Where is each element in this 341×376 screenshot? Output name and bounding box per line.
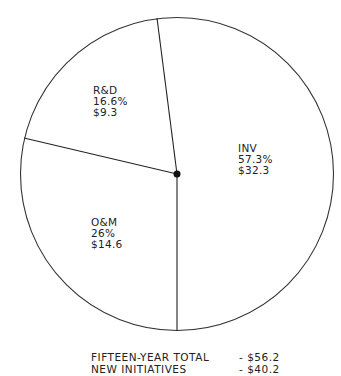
- divider-rd-om: [24, 138, 177, 174]
- pie-chart: [0, 0, 341, 376]
- chart-footnote: FIFTEEN-YEAR TOTAL - $56.2 NEW INITIATIV…: [91, 352, 280, 375]
- divider-inv-rd: [157, 18, 177, 174]
- center-dot: [174, 171, 181, 178]
- slice-label-inv: INV 57.3% $32.3: [238, 143, 273, 176]
- slice-value: $9.3: [93, 107, 128, 118]
- slice-value: $32.3: [238, 165, 273, 176]
- slice-label-om: O&M 26% $14.6: [91, 217, 123, 250]
- new-initiatives-row: NEW INITIATIVES - $40.2: [91, 364, 280, 376]
- slice-value: $14.6: [91, 239, 123, 250]
- slice-label-rd: R&D 16.6% $9.3: [93, 85, 128, 118]
- total-label: FIFTEEN-YEAR TOTAL: [91, 352, 239, 364]
- total-value: - $56.2: [239, 352, 280, 364]
- total-row: FIFTEEN-YEAR TOTAL - $56.2: [91, 352, 280, 364]
- new-initiatives-value: - $40.2: [239, 364, 280, 376]
- new-initiatives-label: NEW INITIATIVES: [91, 364, 239, 376]
